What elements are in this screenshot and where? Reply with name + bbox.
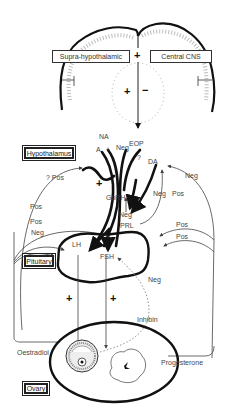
- label-pos-da: Pos: [172, 190, 184, 197]
- ovary-box: Ovary: [24, 383, 48, 394]
- lh-plus-sign: +: [66, 293, 72, 304]
- label-neg-gnrh: Neg: [119, 211, 132, 218]
- label-eop: EOP: [129, 140, 144, 147]
- label-neg-fsh: Neg: [148, 276, 161, 283]
- inner-plus-sign: +: [124, 86, 130, 97]
- label-neg-top: Neg: [116, 144, 129, 151]
- ovary-illustration: [50, 322, 178, 402]
- label-pos-right-2: Pos: [176, 233, 188, 240]
- label-da: DA: [148, 158, 158, 165]
- label-fsh: FSH: [100, 253, 114, 260]
- supra-hypothalamic-box: Supra-hypothalamic: [52, 50, 130, 63]
- label-neg-right: Neg: [185, 172, 198, 179]
- label-progesterone: Progesterone: [161, 359, 203, 366]
- label-na: NA: [99, 133, 109, 140]
- hypothalamus-box: Hypothalamus: [24, 147, 74, 159]
- fsh-plus-sign: +: [110, 293, 116, 304]
- brain-outline: [61, 23, 215, 123]
- label-neg-left: Neg: [31, 229, 44, 236]
- label-plus-left: +: [96, 178, 102, 189]
- label-lh: LH: [72, 241, 81, 248]
- label-neg-da: Neg: [153, 190, 166, 197]
- top-plus-sign: +: [134, 50, 140, 61]
- label-pos-right-1: Pos: [176, 221, 188, 228]
- label-q-pos: ? Pos: [46, 174, 64, 181]
- label-a-plus: +: [106, 146, 110, 153]
- inner-minus-sign: −: [142, 85, 148, 96]
- label-inhibin: Inhibin: [137, 316, 158, 323]
- label-prl: PRL: [120, 222, 134, 229]
- label-question: ?: [137, 154, 141, 161]
- label-pos-left-1: Pos: [30, 203, 42, 210]
- label-pos-left-2: Pos: [30, 218, 42, 225]
- label-a: A: [96, 146, 101, 153]
- central-cns-box: Central CNS: [150, 50, 212, 63]
- label-gnrh: GnRH: [106, 194, 125, 201]
- label-oestradiol: Oestradiol: [17, 349, 49, 356]
- pituitary-box: Pituitary: [24, 255, 54, 267]
